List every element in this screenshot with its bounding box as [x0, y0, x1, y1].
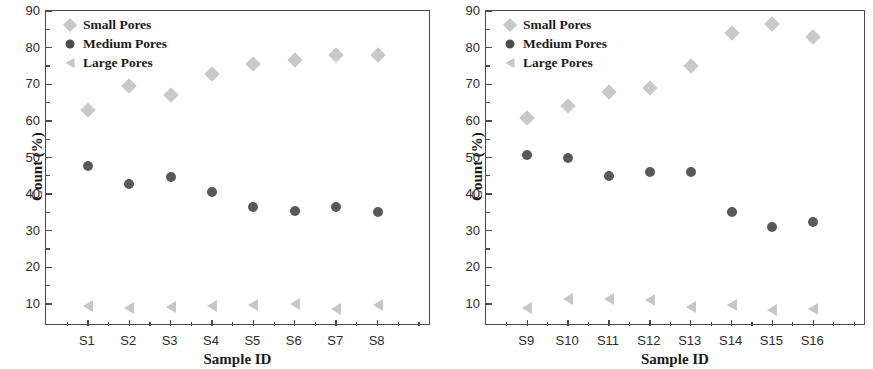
data-point-triangle-left — [331, 303, 341, 315]
y-axis-tick — [46, 267, 52, 268]
x-axis-minor-tick — [751, 322, 752, 326]
y-axis-label: Count (%) — [29, 116, 46, 216]
data-point-triangle-left — [522, 302, 532, 314]
y-axis-minor-tick — [486, 65, 490, 66]
y-axis-minor-tick — [46, 29, 50, 30]
y-axis-minor-tick — [486, 212, 490, 213]
x-axis-minor-tick — [67, 322, 68, 326]
triangle-left-icon — [59, 54, 81, 71]
legend-item-large-pores: Large Pores — [59, 54, 167, 71]
x-axis-tick — [335, 320, 336, 326]
y-axis-tick — [486, 10, 492, 11]
y-axis-tick — [46, 230, 52, 231]
legend-item-medium-pores: Medium Pores — [59, 35, 167, 52]
y-axis-minor-tick — [46, 212, 50, 213]
legend-label: Small Pores — [523, 17, 591, 33]
y-axis-tick-label: 50 — [14, 149, 40, 164]
x-axis-minor-tick — [506, 322, 507, 326]
y-axis-tick — [486, 84, 492, 85]
data-point-triangle-left — [767, 304, 777, 316]
data-point-diamond — [328, 47, 344, 63]
triangle-left-icon — [499, 54, 521, 71]
data-point-triangle-left — [83, 300, 93, 312]
diamond-icon — [499, 16, 521, 33]
data-point-circle — [290, 206, 300, 216]
x-axis-tick-label: S9 — [518, 333, 534, 348]
x-axis-tick — [527, 320, 528, 326]
y-axis-tick — [486, 230, 492, 231]
y-axis-minor-tick — [46, 285, 50, 286]
y-axis-tick-label: 70 — [14, 76, 40, 91]
diamond-icon — [59, 16, 81, 33]
x-axis-minor-tick — [191, 322, 192, 326]
data-point-diamond — [520, 110, 536, 126]
data-point-circle — [207, 187, 217, 197]
x-axis-minor-tick — [670, 322, 671, 326]
data-point-diamond — [642, 80, 658, 96]
y-axis-tick — [46, 303, 52, 304]
y-axis-tick-label: 30 — [454, 222, 480, 237]
data-point-diamond — [246, 56, 262, 72]
data-point-triangle-left — [124, 302, 134, 314]
y-axis-tick — [46, 10, 52, 11]
y-axis-tick-label: 60 — [14, 112, 40, 127]
x-axis-tick — [731, 320, 732, 326]
y-axis-minor-tick — [46, 65, 50, 66]
x-axis-tick-label: S15 — [760, 333, 783, 348]
x-axis-minor-tick — [108, 322, 109, 326]
data-point-circle — [645, 167, 655, 177]
data-point-triangle-left — [686, 301, 696, 313]
y-axis-tick-label: 80 — [454, 39, 480, 54]
y-axis-minor-tick — [486, 139, 490, 140]
chart-panel-right: Count (%) Small Pores Medium Pores Large… — [440, 0, 873, 369]
y-axis-tick — [486, 267, 492, 268]
data-point-circle — [604, 171, 614, 181]
x-axis-minor-tick — [149, 322, 150, 326]
x-axis-tick-label: S14 — [719, 333, 742, 348]
x-axis-tick-label: S12 — [637, 333, 660, 348]
y-axis-minor-tick — [486, 248, 490, 249]
data-point-triangle-left — [373, 299, 383, 311]
y-axis-tick-label: 20 — [14, 259, 40, 274]
data-point-triangle-left — [645, 294, 655, 306]
x-axis-tick — [567, 320, 568, 326]
y-axis-tick — [46, 193, 52, 194]
legend: Small Pores Medium Pores Large Pores — [499, 16, 607, 71]
y-axis-minor-tick — [46, 139, 50, 140]
data-point-triangle-left — [808, 303, 818, 315]
y-axis-tick-label: 40 — [14, 186, 40, 201]
data-point-circle — [331, 202, 341, 212]
legend-label: Medium Pores — [523, 36, 607, 52]
x-axis-tick-label: S2 — [120, 333, 136, 348]
x-axis-tick-label: S7 — [327, 333, 343, 348]
legend-label: Small Pores — [83, 17, 151, 33]
x-axis-minor-tick — [547, 322, 548, 326]
y-axis-tick — [486, 157, 492, 158]
y-axis-tick — [46, 120, 52, 121]
x-axis-tick — [170, 320, 171, 326]
data-point-diamond — [724, 25, 740, 41]
x-axis-minor-tick — [588, 322, 589, 326]
data-point-circle — [248, 202, 258, 212]
data-point-circle — [373, 207, 383, 217]
y-axis-tick-label: 10 — [454, 296, 480, 311]
data-point-diamond — [121, 78, 137, 94]
x-axis-tick-label: S16 — [801, 333, 824, 348]
x-axis-tick-label: S13 — [678, 333, 701, 348]
legend: Small Pores Medium Pores Large Pores — [59, 16, 167, 71]
x-axis-tick — [608, 320, 609, 326]
data-point-circle — [166, 172, 176, 182]
data-point-diamond — [80, 102, 96, 118]
x-axis-tick — [253, 320, 254, 326]
y-axis-tick-label: 90 — [454, 3, 480, 18]
legend-label: Large Pores — [523, 55, 593, 71]
y-axis-minor-tick — [46, 102, 50, 103]
y-axis-label: Count (%) — [469, 116, 486, 216]
x-axis-tick-label: S5 — [244, 333, 260, 348]
y-axis-minor-tick — [486, 175, 490, 176]
data-point-triangle-left — [166, 301, 176, 313]
data-point-diamond — [560, 98, 576, 114]
y-axis-tick — [486, 193, 492, 194]
circle-icon — [59, 35, 81, 52]
x-axis-tick — [377, 320, 378, 326]
